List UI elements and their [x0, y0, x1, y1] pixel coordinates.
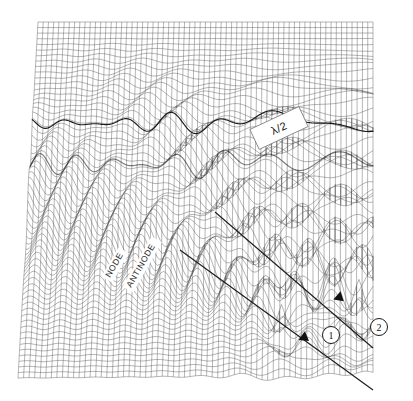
ray-one-circled-number: 1	[323, 327, 340, 344]
ray-two-circled-number: 2	[371, 319, 388, 336]
circled-one-text: 1	[329, 330, 334, 341]
wave-interference-surface-plot: NODE ANTINODE λ/2 1 2	[0, 0, 413, 401]
figure-root: NODE ANTINODE λ/2 1 2	[0, 0, 413, 401]
circled-two-text: 2	[377, 322, 382, 333]
